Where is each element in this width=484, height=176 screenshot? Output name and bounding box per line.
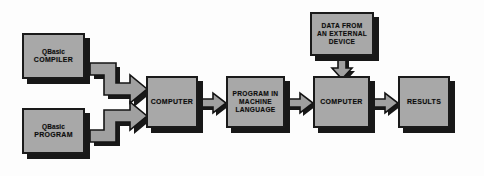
node-computer-second-label: COMPUTER (318, 98, 364, 107)
connector-machine-language-to-computer-arrow (284, 92, 316, 114)
node-computer-first: COMPUTER (146, 76, 198, 128)
connector-computer-to-results-arrow (369, 92, 401, 114)
node-data-from-external-device-label: DATA FROM AN EXTERNAL DEVICE (315, 22, 369, 46)
node-qbasic-compiler-label: QBasic COMPILER (32, 48, 75, 64)
connector-program-to-computer-arrow (82, 100, 152, 150)
diagram-canvas: QBasic COMPILER QBasic PROGRAM COMPUTER … (0, 0, 484, 176)
node-program-in-machine-language: PROGRAM IN MACHINE LANGUAGE (226, 76, 285, 128)
node-data-from-external-device: DATA FROM AN EXTERNAL DEVICE (310, 12, 374, 56)
node-results: RESULTS (398, 76, 450, 128)
node-program-in-machine-language-label: PROGRAM IN MACHINE LANGUAGE (231, 90, 281, 114)
node-computer-second: COMPUTER (313, 76, 370, 128)
node-qbasic-program-label: QBasic PROGRAM (32, 123, 75, 139)
connector-compiler-to-computer-arrow (82, 54, 152, 102)
node-computer-first-label: COMPUTER (149, 98, 195, 107)
node-qbasic-compiler: QBasic COMPILER (22, 33, 85, 79)
node-qbasic-program: QBasic PROGRAM (22, 108, 85, 154)
node-results-label: RESULTS (405, 98, 443, 107)
connector-computer-to-machine-language-arrow (197, 92, 229, 114)
